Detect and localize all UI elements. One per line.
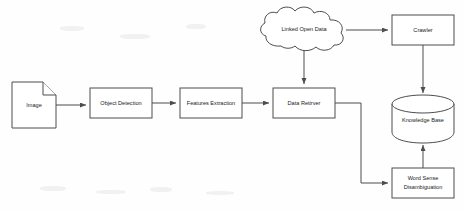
node-crawler[interactable]: Crawler xyxy=(392,15,454,45)
node-image[interactable]: Image xyxy=(12,82,56,128)
diagram-svg: Image Object Detection Features Extracti… xyxy=(0,0,464,211)
edge-data-retirver-to-word-sense-disambiguation xyxy=(335,103,388,183)
node-knowledge-base[interactable]: Knowledge Base xyxy=(392,95,454,143)
node-object-detection[interactable]: Object Detection xyxy=(90,88,152,118)
node-data-retirver[interactable]: Data Retirver xyxy=(273,88,335,118)
node-linked-open-data-label: Linked Open Data xyxy=(281,26,327,32)
node-linked-open-data[interactable]: Linked Open Data xyxy=(261,7,344,51)
node-word-sense-disambiguation[interactable]: Word Sense Disambiguation xyxy=(392,168,454,198)
node-word-sense-disambiguation-label-line-1: Word Sense xyxy=(408,175,439,181)
node-object-detection-label: Object Detection xyxy=(100,100,141,106)
diagram-canvas: Image Object Detection Features Extracti… xyxy=(0,0,464,211)
node-features-extraction-label: Features Extraction xyxy=(187,100,236,106)
node-knowledge-base-label: Knowledge Base xyxy=(402,117,444,123)
node-word-sense-disambiguation-label-line-2: Disambiguation xyxy=(404,184,443,190)
node-crawler-label: Crawler xyxy=(413,27,432,33)
node-image-label: Image xyxy=(26,102,42,108)
node-features-extraction[interactable]: Features Extraction xyxy=(180,88,242,118)
node-data-retirver-label: Data Retirver xyxy=(288,100,321,106)
